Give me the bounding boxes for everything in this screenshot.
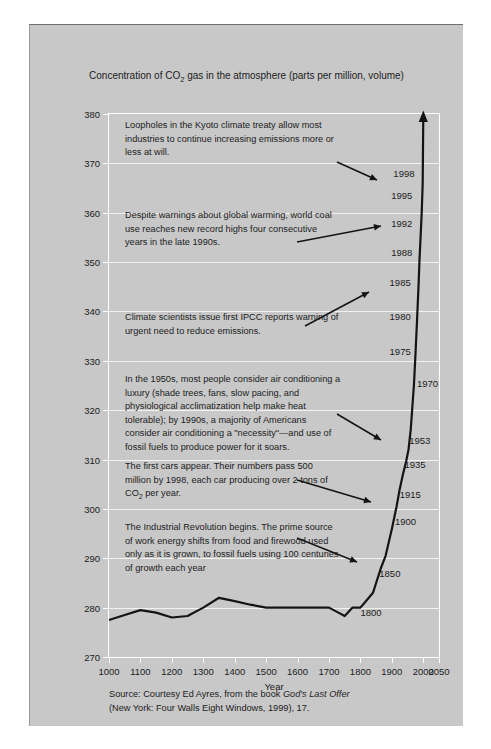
x-axis-label: 1500 bbox=[256, 666, 277, 677]
source-line-2: (New York: Four Walls Eight Windows, 199… bbox=[109, 702, 350, 716]
annotation-text-post: per year. bbox=[143, 488, 181, 498]
y-axis-label: 380 bbox=[84, 109, 100, 120]
annotation-kyoto: Loopholes in the Kyoto climate treaty al… bbox=[125, 119, 340, 160]
source-book-title: God's Last Offer bbox=[283, 689, 350, 699]
y-axis-label: 280 bbox=[84, 602, 100, 613]
annotation-airconditioning: In the 1950s, most people consider air c… bbox=[125, 373, 343, 455]
curve-year-label: 1998 bbox=[393, 168, 414, 179]
y-axis-label: 340 bbox=[84, 306, 100, 317]
curve-year-label: 1935 bbox=[404, 459, 425, 470]
curve-year-label: 1985 bbox=[390, 276, 411, 287]
source-note: Source: Courtesy Ed Ayres, from the book… bbox=[109, 688, 350, 715]
curve-year-label: 1800 bbox=[360, 606, 381, 617]
x-axis-label: 1800 bbox=[350, 666, 371, 677]
source-prefix: Source: Courtesy Ed Ayres, from the book bbox=[109, 689, 283, 699]
x-axis-label: 1100 bbox=[130, 666, 150, 677]
curve-year-label: 1975 bbox=[390, 345, 411, 356]
figure-page: Concentration of CO2 gas in the atmosphe… bbox=[0, 0, 491, 749]
y-axis-label: 350 bbox=[84, 257, 100, 268]
curve-year-label: 1988 bbox=[391, 247, 412, 258]
curve-year-label: 1992 bbox=[391, 217, 412, 228]
x-axis-label: 1600 bbox=[287, 666, 308, 677]
x-axis-label: 1200 bbox=[161, 666, 182, 677]
annotation-coal: Despite warnings about global warming, w… bbox=[125, 209, 340, 250]
y-axis-label: 360 bbox=[84, 207, 100, 218]
y-axis-label: 370 bbox=[84, 158, 100, 169]
x-axis-label: 1400 bbox=[224, 666, 245, 677]
annotation-arrowhead bbox=[374, 224, 381, 230]
curve-year-label: 1850 bbox=[379, 568, 400, 579]
curve-year-label: 1915 bbox=[400, 489, 421, 500]
y-axis-label: 290 bbox=[84, 553, 100, 564]
chart-subtitle-post: gas in the atmosphere (parts per million… bbox=[184, 70, 404, 81]
figure-panel: Concentration of CO2 gas in the atmosphe… bbox=[29, 24, 463, 726]
chart-subtitle-pre: Concentration of CO bbox=[89, 70, 180, 81]
y-axis-label: 320 bbox=[84, 405, 100, 416]
curve-year-label: 1995 bbox=[391, 190, 412, 201]
annotation-cars: The first cars appear. Their numbers pas… bbox=[125, 460, 340, 504]
y-axis-label: 330 bbox=[84, 355, 100, 366]
x-axis-label: 1300 bbox=[193, 666, 214, 677]
curve-year-label: 1900 bbox=[395, 516, 416, 527]
curve-year-label: 1970 bbox=[417, 378, 438, 389]
source-line-1: Source: Courtesy Ed Ayres, from the book… bbox=[109, 688, 350, 702]
y-axis-label: 300 bbox=[84, 503, 100, 514]
x-axis-label: 1700 bbox=[318, 666, 339, 677]
curve-year-label: 1980 bbox=[390, 311, 411, 322]
chart-subtitle: Concentration of CO2 gas in the atmosphe… bbox=[30, 70, 463, 84]
annotation-industrial: The Industrial Revolution begins. The pr… bbox=[125, 521, 340, 575]
y-axis-label: 270 bbox=[84, 652, 100, 663]
annotation-ipcc: Climate scientists issue first IPCC repo… bbox=[125, 311, 340, 338]
y-axis-label: 310 bbox=[84, 454, 100, 465]
curve-year-label: 1953 bbox=[409, 434, 430, 445]
annotation-arrow-line bbox=[337, 414, 381, 440]
x-axis-label: 1000 bbox=[98, 666, 119, 677]
x-axis-label: 1900 bbox=[381, 666, 402, 677]
x-axis-label: 2050 bbox=[428, 666, 449, 677]
plot-area: 270280290300310320330340350360370380 100… bbox=[108, 113, 440, 658]
